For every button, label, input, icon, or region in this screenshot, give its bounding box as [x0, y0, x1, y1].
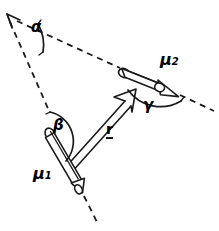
alpha-angle-label: α: [31, 17, 41, 36]
mu1-extension-line-lower: [84, 196, 97, 222]
mu1-symbol-text: μ: [33, 164, 45, 183]
alpha-label-text: α: [31, 18, 41, 36]
mu1-extension-line-upper: [10, 22, 50, 113]
dipole-geometry-figure: α β γ μ1 μ2 r: [0, 0, 219, 231]
mu1-subscript-text: 1: [45, 170, 52, 181]
beta-label-text: β: [53, 116, 64, 134]
gamma-angle-arc: [128, 90, 184, 107]
mu1-label: μ1: [33, 164, 52, 183]
r-vector-label-text: r: [106, 122, 113, 139]
beta-angle-label: β: [53, 115, 64, 134]
gamma-label-text: γ: [143, 96, 153, 114]
r-separation-vector: [64, 89, 136, 174]
mu2-label: μ2: [160, 50, 179, 69]
gamma-angle-label: γ: [143, 95, 153, 114]
mu2-extension-line-right: [180, 95, 214, 111]
r-vector-label: r: [106, 119, 113, 139]
mu2-subscript-text: 2: [172, 56, 179, 67]
mu2-symbol-text: μ: [160, 50, 172, 69]
